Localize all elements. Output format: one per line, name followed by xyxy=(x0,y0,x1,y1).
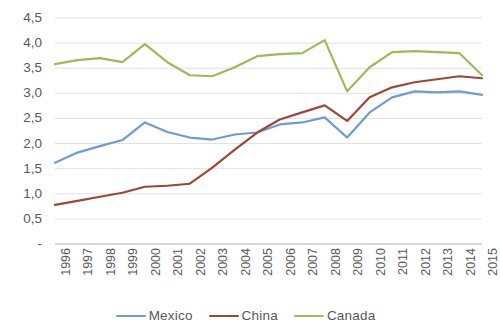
y-tick-label: 3,5 xyxy=(23,61,42,75)
series-lines xyxy=(55,18,482,244)
x-tick-label: 1998 xyxy=(105,248,118,276)
x-tick-label: 2000 xyxy=(150,248,163,276)
y-tick-label: 3,0 xyxy=(23,87,42,101)
y-tick-label: 1,0 xyxy=(23,187,42,201)
x-axis: 1996199719981999200020012002200320042005… xyxy=(55,248,482,298)
x-tick-label: 2010 xyxy=(375,248,388,276)
y-tick-label: - xyxy=(38,237,43,251)
y-tick-label: 4,5 xyxy=(23,11,42,25)
legend-entry-china[interactable]: China xyxy=(209,309,278,323)
x-tick-label: 2012 xyxy=(420,248,433,276)
y-tick-label: 4,0 xyxy=(23,36,42,50)
x-tick-label: 2002 xyxy=(195,248,208,276)
chart-legend: MexicoChinaCanada xyxy=(0,303,491,329)
x-tick-label: 1999 xyxy=(127,248,140,276)
x-tick-label: 2009 xyxy=(352,248,365,276)
y-tick-label: 2,0 xyxy=(23,137,42,151)
y-tick-label: 2,5 xyxy=(23,112,42,126)
x-tick-label: 2001 xyxy=(172,248,185,276)
legend-label: Canada xyxy=(327,309,376,323)
y-axis: 4,54,03,53,02,52,01,51,00,5- xyxy=(0,0,50,260)
legend-entry-canada[interactable]: Canada xyxy=(294,309,376,323)
x-tick-label: 2004 xyxy=(240,248,253,276)
legend-swatch-icon xyxy=(294,315,324,318)
x-tick-label: 2003 xyxy=(217,248,230,276)
x-tick-label: 2007 xyxy=(307,248,320,276)
x-tick-label: 2008 xyxy=(330,248,343,276)
legend-label: Mexico xyxy=(149,309,193,323)
legend-swatch-icon xyxy=(116,315,146,318)
x-tick-label: 1997 xyxy=(82,248,95,276)
x-tick-label: 1996 xyxy=(60,248,73,276)
series-line-canada xyxy=(55,40,482,91)
legend-swatch-icon xyxy=(209,315,239,318)
y-tick-label: 0,5 xyxy=(23,212,42,226)
x-tick-label: 2013 xyxy=(442,248,455,276)
x-tick-label: 2005 xyxy=(262,248,275,276)
x-tick-label: 2014 xyxy=(465,248,478,276)
x-tick-label: 2006 xyxy=(285,248,298,276)
x-tick-label: 2015 xyxy=(487,248,500,276)
legend-label: China xyxy=(242,309,278,323)
legend-entry-mexico[interactable]: Mexico xyxy=(116,309,193,323)
y-tick-label: 1,5 xyxy=(23,162,42,176)
plot-area xyxy=(55,18,482,244)
x-tick-label: 2011 xyxy=(397,248,410,275)
